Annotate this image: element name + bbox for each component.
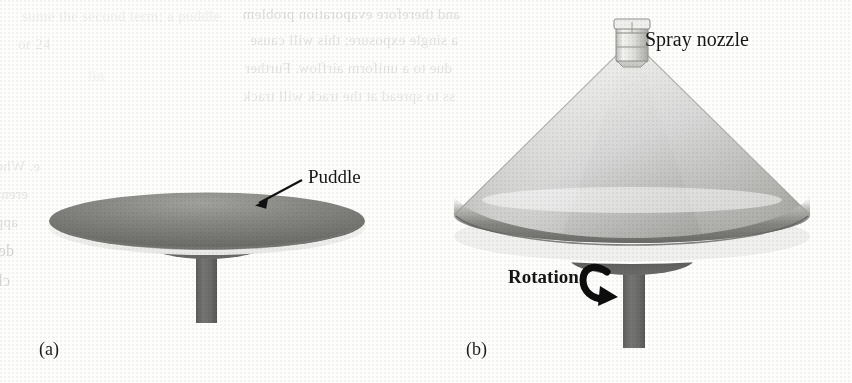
- panel-a-caption: (a): [39, 339, 59, 360]
- puddle-label: Puddle: [308, 166, 361, 188]
- figure-page: sume the second term; a puddleand theref…: [0, 0, 852, 383]
- illustration-svg: [0, 0, 852, 383]
- nozzle-tip: [617, 61, 647, 67]
- panel-b-illustration: [454, 19, 810, 348]
- panel-a-illustration: [48, 180, 366, 323]
- cone-highlight: [482, 187, 782, 213]
- rotation-label: Rotation: [508, 266, 579, 288]
- panel-b-caption: (b): [466, 339, 487, 360]
- spray-nozzle-label: Spray nozzle: [645, 28, 749, 51]
